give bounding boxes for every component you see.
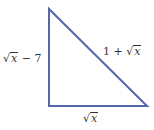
bottom-side-label: √x bbox=[83, 112, 98, 124]
radicand: x bbox=[90, 112, 98, 124]
sqrt-symbol: √ bbox=[3, 52, 10, 65]
triangle-figure bbox=[0, 0, 154, 130]
label-suffix: − 7 bbox=[18, 52, 41, 65]
hypotenuse-label: 1 + √x bbox=[103, 45, 141, 57]
radicand: x bbox=[10, 52, 18, 64]
sqrt-symbol: √ bbox=[126, 45, 133, 58]
left-side-label: √x − 7 bbox=[3, 52, 41, 64]
sqrt-symbol: √ bbox=[83, 112, 90, 125]
label-prefix: 1 + bbox=[103, 45, 126, 58]
radicand: x bbox=[133, 45, 141, 57]
